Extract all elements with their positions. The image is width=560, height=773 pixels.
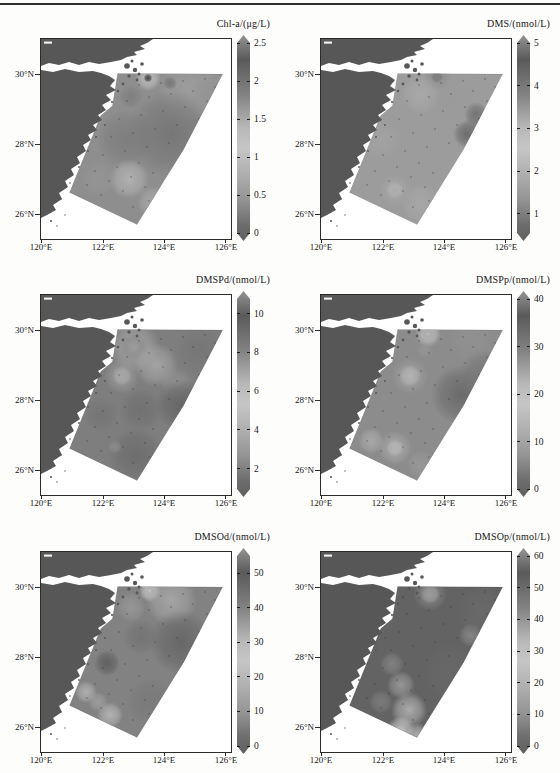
y-axis-tick (315, 144, 320, 145)
y-axis-tick (315, 214, 320, 215)
panel-title: DMSOp/(nmol/L) (474, 531, 550, 542)
colorbar-tick-label: 20 (254, 672, 264, 682)
y-axis-label: 28°N (4, 652, 34, 662)
y-axis-label: 26°N (284, 465, 314, 475)
x-axis-tick (383, 752, 384, 756)
colorbar-tick-label: 0 (534, 484, 539, 494)
colorbar-tick-label: 1 (534, 209, 539, 219)
colorbar-tick-label: 50 (254, 568, 264, 578)
map-plot (320, 294, 512, 496)
colorbar-tick-label: 0 (534, 741, 539, 751)
x-axis-tick (321, 752, 322, 756)
x-axis-label: 122°E (363, 755, 403, 765)
x-axis-label: 124°E (424, 755, 464, 765)
colorbar-tick-label: 10 (534, 437, 544, 447)
y-axis-tick (315, 400, 320, 401)
colorbar: 12345 (517, 35, 559, 241)
colorbar-tick-label: 20 (534, 389, 544, 399)
colorbar-tick-label: 60 (534, 551, 544, 561)
y-axis-label: 26°N (4, 722, 34, 732)
x-axis-label: 126°E (206, 498, 246, 508)
colorbar-tick-label: 0 (254, 741, 259, 751)
colorbar-tick (517, 489, 520, 490)
colorbar-tick (517, 394, 520, 395)
panel-title: DMSPp/(nmol/L) (476, 274, 550, 285)
panel-dms: DMS/(nmol/L) 30°N 28°N 26°N 120°E 122°E … (280, 8, 560, 258)
colorbar-tick (527, 714, 530, 715)
x-axis-label: 120°E (21, 242, 61, 252)
y-axis-tick (315, 74, 320, 75)
panel-title: Chl-a/(μg/L) (217, 18, 270, 29)
x-axis-tick (505, 495, 506, 499)
x-axis-tick (41, 752, 42, 756)
colorbar-tick (527, 213, 530, 214)
x-axis-label: 120°E (301, 755, 341, 765)
colorbar-tick-label: 4 (534, 81, 539, 91)
colorbar-tick (237, 468, 240, 469)
x-axis-tick (103, 239, 104, 243)
x-axis-label: 124°E (144, 242, 184, 252)
x-axis-tick (225, 495, 226, 499)
panel-dmsod: DMSOd/(nmol/L) 30°N 28°N 26°N 120°E 122°… (0, 521, 280, 771)
y-axis-label: 26°N (284, 209, 314, 219)
y-axis-tick (315, 330, 320, 331)
colorbar-tick-label: 10 (254, 309, 264, 319)
figure-page: Chl-a/(μg/L) 30°N 28°N 26°N 120°E 122°E … (0, 0, 560, 773)
panel-dmspp: DMSPp/(nmol/L) 30°N 28°N 26°N 120°E 122°… (280, 264, 560, 514)
x-axis-label: 120°E (21, 498, 61, 508)
colorbar-tick-label: 8 (254, 347, 259, 357)
x-axis-tick (225, 752, 226, 756)
colorbar-tick-label: 2 (254, 76, 259, 86)
colorbar-tick (517, 441, 520, 442)
x-axis-label: 124°E (144, 498, 184, 508)
colorbar-tick (237, 429, 240, 430)
x-axis-tick (383, 239, 384, 243)
x-axis-label: 122°E (83, 498, 123, 508)
colorbar-tick (247, 676, 250, 677)
x-axis-tick (164, 752, 165, 756)
x-axis-label: 124°E (424, 498, 464, 508)
x-axis-tick (383, 495, 384, 499)
y-axis-label: 30°N (284, 325, 314, 335)
y-axis-label: 30°N (4, 582, 34, 592)
colorbar-tick (247, 43, 250, 44)
colorbar-tick (527, 489, 530, 490)
colorbar-tick-label: 40 (534, 614, 544, 624)
y-axis-label: 28°N (4, 139, 34, 149)
contour-map (41, 39, 231, 239)
page-header-rule (0, 3, 560, 5)
contour-map (321, 552, 511, 752)
contour-map (41, 552, 231, 752)
colorbar-tick (237, 573, 240, 574)
colorbar-tick (237, 676, 240, 677)
colorbar-tick (237, 157, 240, 158)
colorbar-tick-label: 10 (254, 706, 264, 716)
x-axis-label: 122°E (363, 498, 403, 508)
y-axis-tick (315, 727, 320, 728)
x-axis-label: 120°E (21, 755, 61, 765)
colorbar-tick-label: 4 (254, 425, 259, 435)
panel-chl-a: Chl-a/(μg/L) 30°N 28°N 26°N 120°E 122°E … (0, 8, 280, 258)
colorbar-tick (237, 119, 240, 120)
y-axis-tick (35, 74, 40, 75)
x-axis-tick (164, 239, 165, 243)
colorbar-tick (527, 85, 530, 86)
x-axis-tick (505, 752, 506, 756)
colorbar-tick-label: 20 (534, 678, 544, 688)
x-axis-tick (41, 495, 42, 499)
y-axis-label: 26°N (4, 465, 34, 475)
x-axis-tick (444, 752, 445, 756)
panel-title: DMS/(nmol/L) (487, 18, 550, 29)
y-axis-label: 28°N (284, 139, 314, 149)
colorbar-tick-label: 30 (254, 637, 264, 647)
colorbar-tick (527, 619, 530, 620)
x-axis-label: 126°E (486, 755, 526, 765)
colorbar-tick (237, 195, 240, 196)
y-axis-tick (35, 214, 40, 215)
colorbar-tick (517, 43, 520, 44)
colorbar: 246810 (237, 291, 279, 497)
colorbar-tick (247, 429, 250, 430)
y-axis-tick (315, 657, 320, 658)
panel-dmspd: DMSPd/(nmol/L) 30°N 28°N 26°N 120°E 122°… (0, 264, 280, 514)
colorbar-tick (527, 43, 530, 44)
